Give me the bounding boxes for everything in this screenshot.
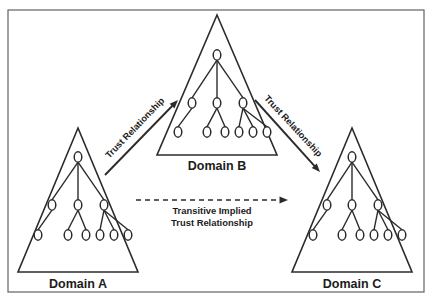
tree-node-leaf [64, 230, 72, 240]
tree-node-leaf [203, 127, 211, 137]
relationship-label-line2: Trust Relationship [171, 217, 253, 228]
tree-node-leaf [124, 230, 132, 240]
tree-node-leaf [110, 230, 118, 240]
tree-node-leaf [309, 230, 317, 240]
tree-node-branch [100, 200, 108, 210]
tree-node-branch [48, 200, 56, 210]
domain-label-b: Domain B [188, 159, 246, 173]
tree-node-leaf [82, 230, 90, 240]
trust-relationship-diagram: Domain ADomain BDomain CTrust Relationsh… [0, 0, 433, 302]
tree-node-leaf [338, 230, 346, 240]
tree-node-root [213, 50, 221, 60]
tree-node-leaf [235, 127, 243, 137]
tree-node-leaf [249, 127, 257, 137]
tree-node-leaf [263, 127, 271, 137]
tree-node-leaf [96, 230, 104, 240]
tree-node-branch [348, 200, 356, 210]
tree-node-leaf [356, 230, 364, 240]
tree-node-leaf [384, 230, 392, 240]
tree-node-root [74, 152, 82, 162]
tree-node-branch [239, 98, 247, 108]
tree-node-leaf [174, 127, 182, 137]
tree-node-branch [188, 98, 196, 108]
tree-node-leaf [221, 127, 229, 137]
tree-node-root [348, 152, 356, 162]
domain-label-a: Domain A [49, 277, 107, 291]
domain-label-c: Domain C [323, 277, 381, 291]
tree-node-branch [374, 200, 382, 210]
tree-node-leaf [398, 230, 406, 240]
relationship-label-line1: Transitive Implied [172, 205, 251, 216]
tree-node-branch [323, 200, 331, 210]
tree-node-branch [213, 98, 221, 108]
tree-node-branch [74, 200, 82, 210]
tree-node-leaf [34, 230, 42, 240]
tree-node-leaf [370, 230, 378, 240]
